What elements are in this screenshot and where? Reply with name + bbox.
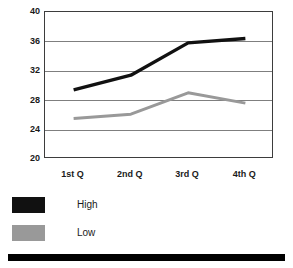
y-tick-label: 40 xyxy=(2,6,40,16)
y-tick-label: 20 xyxy=(2,153,40,163)
y-tick-label: 32 xyxy=(2,65,40,75)
line-chart-figure: 40 36 32 28 24 20 1st Q 2nd Q 3rd Q 4th … xyxy=(0,0,293,268)
y-tick-label: 24 xyxy=(2,124,40,134)
y-tick-label: 36 xyxy=(2,36,40,46)
series-lines xyxy=(45,12,274,159)
plot-area xyxy=(44,11,273,158)
legend-entry-low: Low xyxy=(12,221,192,245)
legend-label-high: High xyxy=(77,199,98,211)
x-tick-label: 4th Q xyxy=(216,168,273,184)
legend-swatch-high xyxy=(12,197,45,213)
series-line-high xyxy=(74,38,246,89)
bottom-divider-bar xyxy=(8,254,285,261)
x-axis: 1st Q 2nd Q 3rd Q 4th Q xyxy=(44,168,273,184)
legend-swatch-low xyxy=(12,225,45,241)
y-tick-label: 28 xyxy=(2,95,40,105)
legend-entry-high: High xyxy=(12,193,192,217)
x-tick-label: 1st Q xyxy=(44,168,101,184)
chart-legend: High Low xyxy=(12,193,192,249)
legend-label-low: Low xyxy=(77,227,95,239)
y-axis: 40 36 32 28 24 20 xyxy=(0,0,40,170)
x-tick-label: 3rd Q xyxy=(159,168,216,184)
series-line-low xyxy=(74,93,246,119)
x-tick-label: 2nd Q xyxy=(101,168,158,184)
